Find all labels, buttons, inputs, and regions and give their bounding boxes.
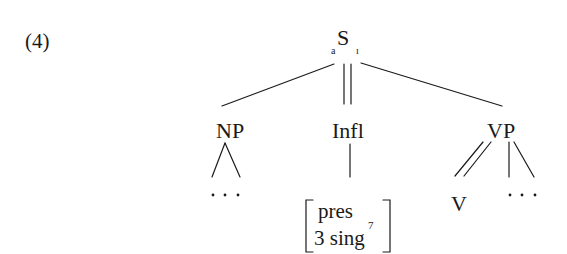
node-s-left-subscript: a [331, 45, 336, 56]
syntax-tree-diagram: (4) S a ı NP Infl pres 7 3 sing [0, 0, 567, 254]
edge-s-vp [361, 63, 502, 106]
feature-pres: pres [318, 199, 353, 223]
edge-vp-v-double-b [464, 142, 491, 176]
np-ellipsis [212, 194, 240, 197]
feature-matrix-right-bracket [383, 200, 390, 252]
example-number: (4) [25, 29, 50, 53]
node-v-label: V [451, 191, 467, 216]
edge-vp-ellipsis-diagonal [514, 142, 534, 177]
node-np: NP [212, 118, 245, 196]
node-infl-label: Infl [332, 118, 364, 143]
node-vp: VP V [451, 118, 536, 216]
np-triangle-left [212, 143, 225, 177]
node-s-label: S [337, 25, 349, 50]
np-triangle-right [225, 143, 240, 177]
edge-s-np [222, 64, 334, 106]
feature-pres-subscript: 7 [368, 219, 374, 231]
node-s-right-subscript: ı [356, 45, 359, 56]
node-np-label: NP [216, 118, 244, 143]
feature-3-sing: 3 sing [314, 226, 365, 250]
node-s: S a ı [331, 25, 359, 56]
node-infl: Infl pres 7 3 sing [306, 118, 390, 252]
feature-matrix-left-bracket [306, 200, 313, 252]
node-vp-label: VP [487, 118, 515, 143]
feature-matrix: pres 7 3 sing [306, 199, 390, 252]
edge-vp-v-double-a [455, 142, 483, 176]
vp-ellipsis [509, 194, 537, 197]
